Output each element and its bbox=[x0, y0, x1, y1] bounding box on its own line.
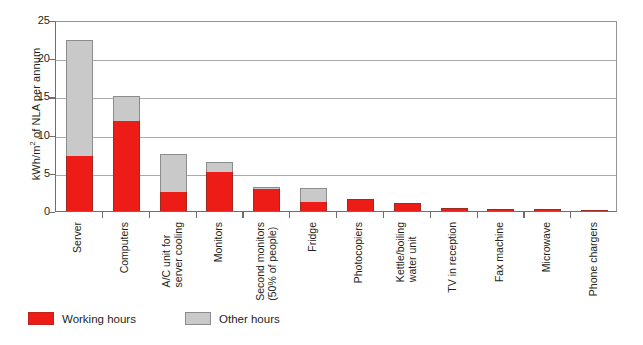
x-axis-label-line: Computers bbox=[119, 222, 131, 273]
bar-segment-working-hours bbox=[253, 189, 280, 211]
x-axis-tick-mark bbox=[196, 212, 197, 218]
x-axis-label-line: Server bbox=[72, 222, 84, 253]
x-axis-label-a-c-unit-for-server-cooling: A/C unit forserver cooling bbox=[159, 222, 186, 308]
bar-segment-working-hours bbox=[581, 210, 608, 211]
y-axis-tick-label: 15 bbox=[10, 91, 50, 102]
bar-segment-working-hours bbox=[394, 203, 421, 211]
x-axis-label-photocopiers: Photocopiers bbox=[346, 222, 373, 308]
bar-segment-working-hours bbox=[441, 208, 468, 211]
x-axis-tick-mark bbox=[523, 212, 524, 218]
gridline bbox=[56, 175, 616, 176]
x-axis-label-text: Phone chargers bbox=[588, 222, 600, 296]
x-axis-label-line: Phone chargers bbox=[587, 222, 599, 296]
x-axis-tick-mark bbox=[430, 212, 431, 218]
x-axis-label-line: Microwave bbox=[540, 222, 552, 272]
legend-item-other: Other hours bbox=[185, 312, 280, 325]
x-axis-label-line: water unit bbox=[406, 222, 418, 282]
bar-segment-other-hours bbox=[160, 154, 187, 192]
y-axis-tick-mark bbox=[49, 212, 55, 213]
x-axis-label-line: (50% of people) bbox=[266, 222, 278, 301]
bar-segment-other-hours bbox=[300, 188, 327, 202]
x-axis-label-phone-chargers: Phone chargers bbox=[580, 222, 607, 308]
x-axis-tick-mark bbox=[289, 212, 290, 218]
x-axis-label-text: A/C unit forserver cooling bbox=[161, 222, 184, 287]
y-axis-tick-label: 5 bbox=[10, 168, 50, 179]
x-axis-tick-mark bbox=[477, 212, 478, 218]
bar-kettle-boiling-water-unit bbox=[394, 203, 421, 211]
x-axis-tick-mark bbox=[102, 212, 103, 218]
bar-segment-working-hours bbox=[347, 199, 374, 211]
x-axis-label-computers: Computers bbox=[112, 222, 139, 308]
bar-phone-chargers bbox=[581, 210, 608, 211]
x-axis-tick-mark bbox=[336, 212, 337, 218]
legend-label: Other hours bbox=[219, 313, 280, 325]
bar-segment-other-hours bbox=[113, 96, 140, 120]
plot-area bbox=[55, 21, 617, 212]
bar-photocopiers bbox=[347, 199, 374, 211]
legend-item-work: Working hours bbox=[28, 312, 136, 325]
bar-tv-in-reception bbox=[441, 208, 468, 211]
x-axis-label-server: Server bbox=[65, 222, 92, 308]
x-axis-label-line: Monitors bbox=[212, 222, 224, 262]
legend-label: Working hours bbox=[62, 313, 136, 325]
y-axis-tick-label: 10 bbox=[10, 130, 50, 141]
bar-computers bbox=[113, 96, 140, 211]
gridline bbox=[56, 60, 616, 61]
bar-segment-working-hours bbox=[300, 202, 327, 211]
legend-swatch-work bbox=[28, 312, 54, 325]
x-axis-label-fax-machine: Fax machine bbox=[486, 222, 513, 308]
gridline bbox=[56, 98, 616, 99]
y-axis-title: kWh/m2 of NLA per annum bbox=[30, 14, 42, 214]
x-axis-label-text: Fax machine bbox=[494, 222, 506, 282]
bar-segment-working-hours bbox=[113, 121, 140, 211]
y-axis-title-superscript: 2 bbox=[28, 141, 37, 145]
x-axis-label-line: Fridge bbox=[306, 222, 318, 252]
bar-server bbox=[66, 40, 93, 211]
x-axis-label-line: Fax machine bbox=[493, 222, 505, 282]
x-axis-label-text: Kettle/boilingwater unit bbox=[395, 222, 418, 282]
x-axis-label-line: Kettle/boiling bbox=[394, 222, 406, 282]
x-axis-label-text: Monitors bbox=[213, 222, 225, 262]
x-axis-label-text: Second monitors(50% of people) bbox=[254, 222, 277, 301]
x-axis-label-text: TV in reception bbox=[447, 222, 459, 293]
x-axis-label-line: TV in reception bbox=[446, 222, 458, 293]
x-axis-tick-mark bbox=[383, 212, 384, 218]
x-axis-label-text: Microwave bbox=[541, 222, 553, 272]
energy-consumption-bar-chart: kWh/m2 of NLA per annum 0510152025 Serve… bbox=[0, 0, 643, 345]
x-axis-label-line: server cooling bbox=[172, 222, 184, 287]
x-axis-label-microwave: Microwave bbox=[533, 222, 560, 308]
x-axis-label-text: Server bbox=[73, 222, 85, 253]
y-axis-tick-label: 0 bbox=[10, 206, 50, 217]
bar-segment-other-hours bbox=[66, 40, 93, 156]
bar-a-c-unit-for-server-cooling bbox=[160, 154, 187, 211]
x-axis-label-line: Second monitors bbox=[253, 222, 265, 301]
bar-second-monitors-50-of-people bbox=[253, 187, 280, 211]
bar-segment-working-hours bbox=[487, 209, 514, 211]
x-axis-tick-mark bbox=[149, 212, 150, 218]
x-axis-label-tv-in-reception: TV in reception bbox=[440, 222, 467, 308]
y-axis-tick-label: 20 bbox=[10, 53, 50, 64]
x-axis-label-fridge: Fridge bbox=[299, 222, 326, 308]
bar-segment-other-hours bbox=[206, 162, 233, 172]
x-axis-label-second-monitors-50-of-people: Second monitors(50% of people) bbox=[252, 222, 279, 308]
x-axis-label-kettle-boiling-water-unit: Kettle/boilingwater unit bbox=[393, 222, 420, 308]
x-axis-tick-mark bbox=[242, 212, 243, 218]
bar-segment-working-hours bbox=[160, 192, 187, 211]
bar-microwave bbox=[534, 209, 561, 211]
bar-segment-working-hours bbox=[534, 209, 561, 211]
bar-segment-working-hours bbox=[206, 172, 233, 211]
x-axis-tick-mark bbox=[570, 212, 571, 218]
x-axis-label-line: Photocopiers bbox=[353, 222, 365, 283]
bar-fridge bbox=[300, 188, 327, 211]
bar-segment-working-hours bbox=[66, 156, 93, 211]
y-axis-tick-label: 25 bbox=[10, 15, 50, 26]
gridline bbox=[56, 137, 616, 138]
x-axis-label-monitors: Monitors bbox=[205, 222, 232, 308]
x-axis-label-line: A/C unit for bbox=[160, 235, 172, 288]
legend-swatch-other bbox=[185, 312, 211, 325]
bar-monitors bbox=[206, 162, 233, 211]
x-axis-label-text: Photocopiers bbox=[354, 222, 366, 283]
x-axis-label-text: Computers bbox=[120, 222, 132, 273]
x-axis-label-text: Fridge bbox=[307, 222, 319, 252]
bar-fax-machine bbox=[487, 209, 514, 211]
